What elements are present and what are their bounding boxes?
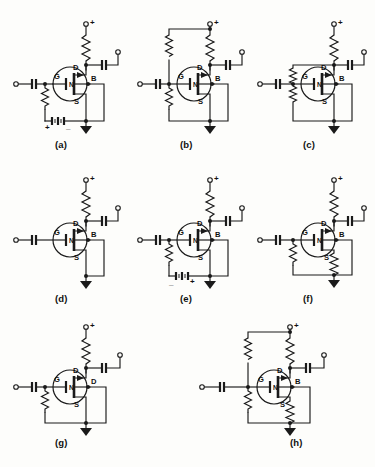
supply-terminal-e [208,178,213,183]
output-terminal-e [240,206,245,211]
supply-label-b: + [214,18,219,27]
circuit-g: + N G D S D [0,313,160,439]
terminal-label-body-c: B [339,74,345,83]
channel-type-e: N [193,237,198,244]
channel-type-c: N [317,81,322,88]
input-terminal-e [138,238,143,243]
output-terminal-f [362,206,367,211]
supply-label-d: + [90,174,95,183]
caption-d: (d) [55,293,68,304]
battery-minus-a: _ [65,122,71,131]
terminal-label-source-e: S [198,253,203,262]
terminal-label-body-f: B [339,230,345,239]
supply-label-h: + [294,321,299,330]
input-terminal-c [258,82,263,87]
terminal-label-drain-a: D [73,63,79,72]
ground-symbol-e [204,281,216,289]
terminal-label-gate-e: G [178,228,184,237]
battery-plus-a: + [45,123,50,132]
ground-symbol-h [284,428,296,436]
input-terminal-g [14,385,19,390]
divider-lower-resistor-b [166,84,173,110]
ground-symbol-f [328,280,340,288]
output-terminal-a [116,50,121,55]
terminal-label-drain-b: D [197,63,203,72]
battery-plus-e: + [190,277,195,286]
output-terminal-c [362,50,367,55]
battery-minus-e: _ [168,278,174,287]
terminal-label-body-e: B [215,230,221,239]
terminal-label-gate-f: G [302,228,308,237]
ground-symbol-b [204,126,216,134]
terminal-label-body-h: B [295,377,301,386]
divider-upper-resistor-h [245,338,252,360]
terminal-label-gate-d: G [54,228,60,237]
terminal-label-gate-g: G [54,375,60,384]
caption-g: (g) [55,437,68,448]
drain-resistor-f [330,191,338,217]
channel-type-b: N [193,81,198,88]
divider-upper-resistor-b [166,35,173,57]
supply-terminal-c [332,22,337,27]
terminal-label-source-h: S [280,400,285,409]
caption-h: (h) [290,437,303,448]
terminal-label-drain-h: D [277,366,283,375]
terminal-label-source-c: S [322,97,327,106]
supply-label-c: + [338,18,343,27]
circuit-b: + N [124,2,254,138]
terminal-label-source-d: S [74,253,79,262]
terminal-label-body-b: B [215,74,221,83]
drain-resistor-a [82,35,90,61]
terminal-label-gate-a: G [54,72,60,81]
drain-resistor-e [206,191,214,217]
gate-resistor-g [42,387,49,413]
source-resistor-f [330,253,338,276]
supply-terminal-b [208,22,213,27]
drain-resistor-g [82,338,90,364]
input-terminal-h [200,385,205,390]
drain-resistor-h [286,338,294,364]
terminal-label-drain-top-g: D [73,366,79,375]
terminal-label-drain-d: D [73,219,79,228]
terminal-label-drain-f: D [321,219,327,228]
terminal-label-body-d: B [91,230,97,239]
gate-resistor-a [42,84,49,110]
terminal-label-source-g: S [74,400,79,409]
output-terminal-d [116,206,121,211]
input-terminal-a [14,82,19,87]
supply-label-a: + [90,18,95,27]
supply-terminal-d [84,178,89,183]
channel-type-d: N [69,237,74,244]
source-resistor-h [286,401,294,424]
circuit-h: + N [190,313,375,439]
ground-symbol-d [80,281,92,289]
circuit-f: + N G D S B [248,163,375,293]
drain-resistor-d [82,191,90,217]
circuit-d: + N G D S B [0,163,130,293]
terminal-label-source-a: S [74,97,79,106]
terminal-label-source-b: S [198,97,203,106]
caption-a: (a) [55,139,67,150]
caption-e: (e) [180,293,192,304]
feedback-lower-resistor-c [290,86,297,102]
input-terminal-d [14,238,19,243]
channel-type-h: N [273,384,278,391]
source-rail-node-f [332,273,336,277]
feedback-upper-resistor-c [290,68,297,84]
ground-symbol-g [80,428,92,436]
terminal-label-body-a: B [91,74,97,83]
supply-terminal-a [84,22,89,27]
input-terminal-f [258,238,263,243]
drain-resistor-c [330,35,338,61]
terminal-label-drain-c: D [321,63,327,72]
circuit-c: + N G D [248,2,375,138]
input-terminal-b [138,82,143,87]
circuit-e: + N G D S B [124,163,254,293]
terminal-label-drain-right-g: D [91,377,97,386]
gate-resistor-e [166,240,173,266]
supply-label-g: + [90,321,95,330]
supply-label-e: + [214,174,219,183]
output-terminal-b [240,50,245,55]
divider-lower-resistor-h [245,387,252,413]
ground-symbol-a [80,126,92,134]
